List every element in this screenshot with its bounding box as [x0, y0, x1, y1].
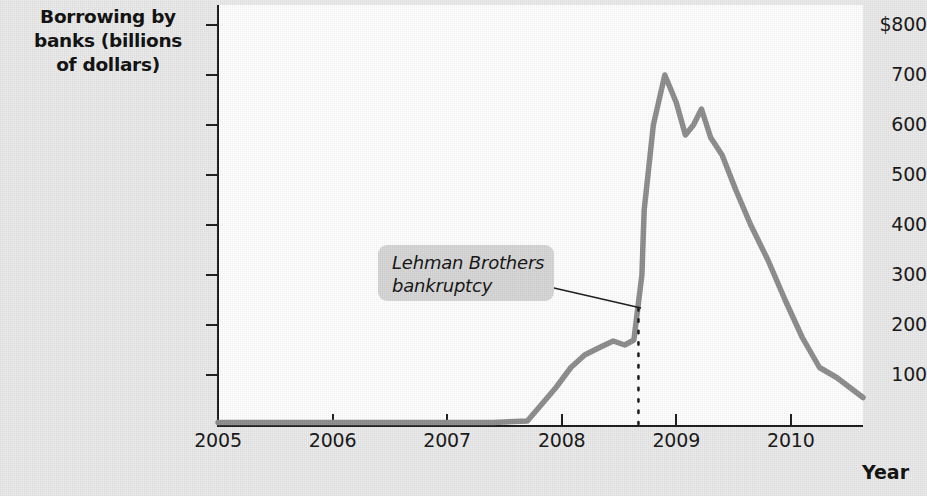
lehman-annotation-text: Lehman Brothers bankruptcy — [392, 251, 544, 297]
borrowing-by-banks-chart: Borrowing by banks (billions of dollars)… — [0, 0, 927, 496]
lehman-annotation-box: Lehman Brothers bankruptcy — [378, 245, 554, 301]
annotation-leader-line — [554, 288, 641, 308]
